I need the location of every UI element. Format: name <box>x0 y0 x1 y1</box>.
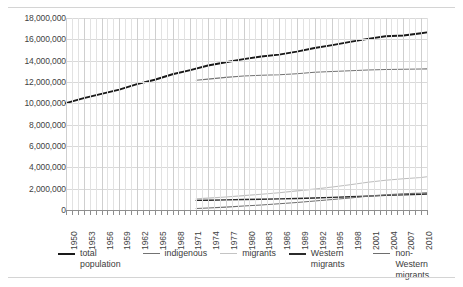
bottom-divider <box>8 277 455 278</box>
y-axis-tick-label: 4,000,000 <box>2 163 66 172</box>
gridline-vertical <box>161 18 162 210</box>
gridline-vertical <box>131 18 132 210</box>
gridline-vertical <box>309 18 310 210</box>
gridline-vertical <box>173 18 174 210</box>
y-axis-tick-label: 6,000,000 <box>2 142 66 151</box>
x-axis-tick <box>380 211 381 215</box>
x-axis-tick <box>374 211 375 215</box>
gridline-vertical <box>107 18 108 210</box>
legend-item[interactable]: migrants <box>220 248 276 259</box>
x-axis-tick <box>267 211 268 215</box>
gridline-vertical <box>427 18 428 210</box>
gridline-vertical <box>66 18 67 210</box>
gridline-vertical <box>303 18 304 210</box>
gridline-vertical <box>226 18 227 210</box>
x-axis-tick <box>107 211 108 215</box>
gridline-vertical <box>415 18 416 210</box>
legend-line-swatch <box>373 253 390 254</box>
gridline-vertical <box>137 18 138 210</box>
x-axis-tick <box>332 211 333 215</box>
legend-line-swatch <box>143 253 160 254</box>
x-axis-tick <box>368 211 369 215</box>
gridline-vertical <box>380 18 381 210</box>
x-axis-tick <box>303 211 304 215</box>
gridline-vertical <box>362 18 363 210</box>
gridline-vertical <box>178 18 179 210</box>
gridline-vertical <box>72 18 73 210</box>
x-axis-tick <box>338 211 339 215</box>
x-axis-tick <box>113 211 114 215</box>
legend-label: migrants <box>242 248 276 259</box>
top-divider <box>8 7 455 8</box>
gridline-vertical <box>238 18 239 210</box>
gridline-vertical <box>291 18 292 210</box>
x-axis-tick <box>350 211 351 215</box>
gridline-vertical <box>255 18 256 210</box>
gridline-vertical <box>391 18 392 210</box>
x-axis-tick <box>273 211 274 215</box>
x-axis-tick <box>409 211 410 215</box>
gridline-vertical <box>273 18 274 210</box>
gridline-vertical <box>320 18 321 210</box>
gridline-vertical <box>78 18 79 210</box>
gridline-vertical <box>202 18 203 210</box>
x-axis-tick <box>184 211 185 215</box>
x-axis-tick <box>344 211 345 215</box>
gridline-vertical <box>386 18 387 210</box>
gridline-vertical <box>350 18 351 210</box>
gridline-vertical <box>102 18 103 210</box>
y-axis-tick-label: 10,000,000 <box>2 99 66 108</box>
x-axis-tick <box>255 211 256 215</box>
legend-label: indigenous <box>165 248 208 259</box>
gridline-vertical <box>208 18 209 210</box>
legend-item[interactable]: total population <box>58 248 130 270</box>
y-axis-tick-label: 16,000,000 <box>2 35 66 44</box>
gridline-vertical <box>338 18 339 210</box>
gridline-vertical <box>368 18 369 210</box>
line-chart: 18,000,00016,000,00014,000,00012,000,000… <box>0 10 463 210</box>
legend-item[interactable]: Western migrants <box>289 248 361 270</box>
gridline-vertical <box>326 18 327 210</box>
gridline-vertical <box>403 18 404 210</box>
gridline-vertical <box>279 18 280 210</box>
x-axis-tick <box>356 211 357 215</box>
gridline-vertical <box>143 18 144 210</box>
x-axis-tick <box>427 211 428 215</box>
x-axis-tick <box>90 211 91 215</box>
gridline-vertical <box>155 18 156 210</box>
x-axis-tick <box>161 211 162 215</box>
x-axis-tick <box>72 211 73 215</box>
x-axis-tick <box>386 211 387 215</box>
x-axis-tick <box>232 211 233 215</box>
x-axis-tick <box>261 211 262 215</box>
gridline-vertical <box>119 18 120 210</box>
x-axis-tick <box>96 211 97 215</box>
gridline-vertical <box>214 18 215 210</box>
legend-item[interactable]: indigenous <box>143 248 208 259</box>
gridline-vertical <box>244 18 245 210</box>
x-axis-tick <box>202 211 203 215</box>
gridline-vertical <box>421 18 422 210</box>
gridline-vertical <box>84 18 85 210</box>
x-axis-tick <box>309 211 310 215</box>
x-axis-tick <box>190 211 191 215</box>
x-axis-tick <box>403 211 404 215</box>
x-axis-tick <box>196 211 197 215</box>
x-axis-tick <box>66 211 67 215</box>
gridline-vertical <box>356 18 357 210</box>
plot-area <box>66 18 427 210</box>
y-axis-tick-label: 18,000,000 <box>2 14 66 23</box>
y-axis-tick-label: 0 <box>2 206 66 215</box>
y-axis: 18,000,00016,000,00014,000,00012,000,000… <box>0 18 66 210</box>
x-axis-tick <box>285 211 286 215</box>
gridline-vertical <box>297 18 298 210</box>
y-axis-tick-label: 2,000,000 <box>2 185 66 194</box>
x-axis-tick <box>137 211 138 215</box>
x-axis-tick <box>279 211 280 215</box>
x-axis-labels: 1950195319561959196219651968197119741977… <box>66 216 428 252</box>
legend-label: total population <box>80 248 130 270</box>
x-axis-tick <box>214 211 215 215</box>
x-axis-tick <box>149 211 150 215</box>
x-axis-tick <box>291 211 292 215</box>
gridline-vertical <box>267 18 268 210</box>
